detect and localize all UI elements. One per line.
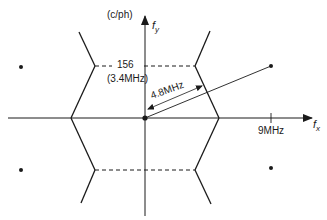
spoke-top-left (79, 32, 95, 66)
hex-edge-left-upper (71, 66, 95, 118)
frequency-diagram: (c/ph) fy fx 156 (3.4MHz) 4.8MHz 9MHz (0, 0, 327, 220)
fy-value-label: 156 (117, 59, 134, 70)
spectral-point-bottom-left (19, 168, 23, 172)
hex-edge-right-lower (195, 118, 219, 170)
fy-value-mhz-label: (3.4MHz) (107, 73, 148, 84)
fy-axis-label: fy (152, 19, 160, 34)
spoke-bottom-right (195, 170, 211, 204)
spoke-bottom-left (81, 170, 95, 203)
spoke-top-right (195, 31, 210, 66)
fx-axis-label: fx (313, 118, 321, 133)
fx-tick-label: 9MHz (258, 125, 284, 136)
distance-label: 4.8MHz (149, 79, 185, 101)
spectral-point-top-left (19, 65, 23, 69)
fy-unit-label: (c/ph) (107, 9, 133, 20)
hex-edge-left-lower (71, 118, 95, 170)
spectral-point-bottom-right (269, 166, 273, 170)
